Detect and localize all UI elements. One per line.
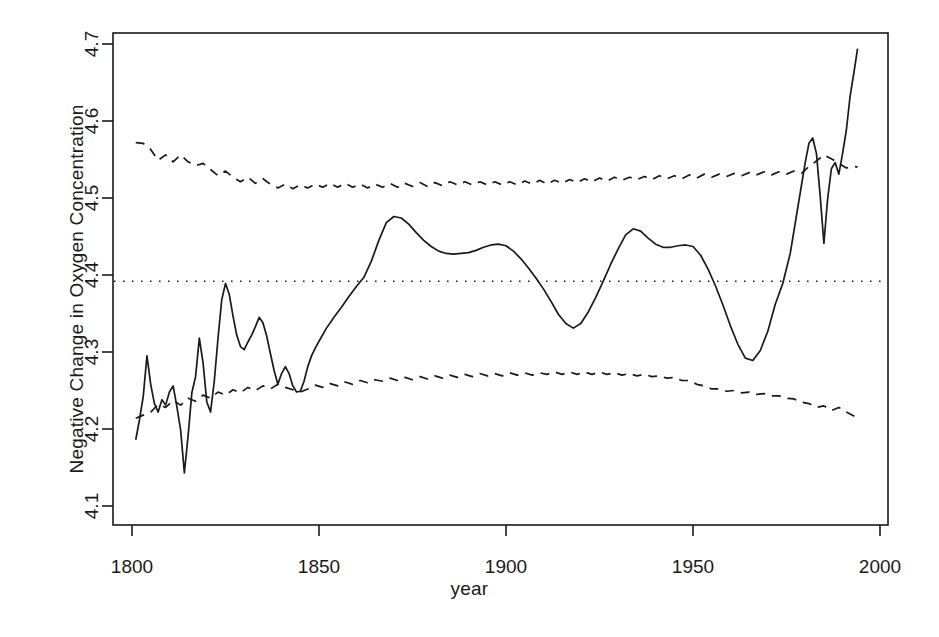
- y-axis-ticks: [102, 44, 113, 506]
- x-tick-label: 2000: [859, 556, 901, 577]
- x-tick-label: 1850: [298, 556, 340, 577]
- series-line-lower-confidence-bound: [136, 372, 858, 420]
- x-axis-label: year: [0, 578, 939, 600]
- x-axis-ticks: [132, 525, 880, 536]
- x-tick-label: 1950: [672, 556, 714, 577]
- x-tick-label: 1800: [111, 556, 153, 577]
- y-axis-label: Negative Change in Oxygen Concentration: [66, 49, 88, 529]
- plot-canvas: 4.14.24.34.44.54.64.7 180018501900195020…: [0, 0, 939, 637]
- series-line-estimate: [136, 49, 858, 473]
- x-tick-label: 1900: [485, 556, 527, 577]
- x-tick-labels: 18001850190019502000: [111, 556, 901, 577]
- data-series-group: [136, 49, 858, 473]
- series-line-upper-confidence-bound: [136, 143, 858, 189]
- plot-frame: [113, 33, 888, 525]
- chart-figure: 4.14.24.34.44.54.64.7 180018501900195020…: [0, 0, 939, 637]
